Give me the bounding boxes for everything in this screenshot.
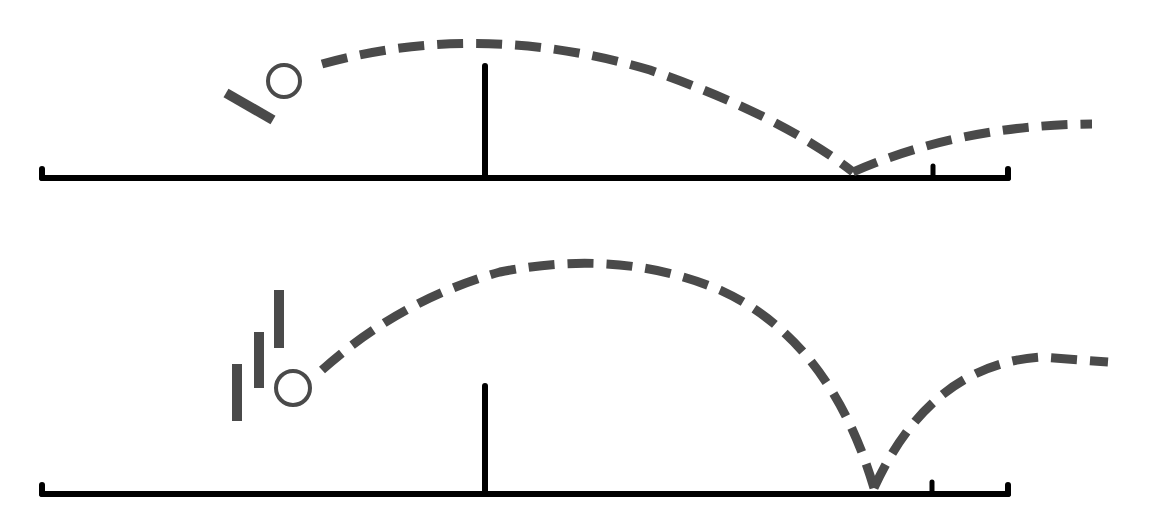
panel-topspin-stroke	[42, 263, 1108, 494]
ball-icon	[268, 65, 300, 97]
bounce-trajectory	[853, 124, 1092, 172]
diagram-canvas	[0, 0, 1154, 529]
ball-icon	[276, 371, 310, 405]
paddle-motion-icon	[226, 93, 273, 120]
bounce-trajectory	[874, 357, 1108, 488]
trajectory-diagram	[0, 0, 1154, 529]
ball-trajectory	[322, 263, 874, 488]
panel-flat-stroke	[42, 43, 1092, 178]
ball-trajectory	[322, 43, 853, 172]
